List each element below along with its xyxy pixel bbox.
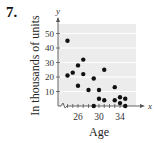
x-tick-label: 26 — [73, 112, 83, 122]
x-axis-symbol: x — [147, 101, 152, 111]
data-point — [113, 85, 117, 89]
data-point — [118, 101, 122, 105]
data-point — [123, 97, 127, 101]
data-point — [113, 98, 117, 102]
data-point — [76, 63, 80, 67]
data-point — [86, 88, 90, 92]
data-point — [71, 70, 75, 74]
y-tick-label: 20 — [45, 72, 55, 82]
data-point — [92, 104, 96, 108]
y-tick-label: 10 — [45, 87, 55, 97]
data-point — [102, 68, 106, 72]
x-tick-label: 34 — [115, 112, 125, 122]
data-point — [97, 97, 101, 101]
x-axis-arrow-icon — [140, 104, 145, 108]
data-point — [65, 39, 69, 43]
y-tick-label: 30 — [45, 58, 55, 68]
data-point — [65, 73, 69, 77]
y-tick-label: 50 — [45, 29, 55, 39]
data-point — [123, 104, 127, 108]
data-point — [76, 84, 80, 88]
plot-area — [58, 24, 136, 106]
data-point — [97, 88, 101, 92]
data-point — [81, 57, 85, 61]
scatter-plot: 1020304050yx263034Age — [0, 0, 158, 143]
y-tick-label: 40 — [45, 43, 55, 53]
y-axis-arrow-icon — [56, 17, 60, 22]
x-axis-label: Age — [89, 125, 109, 139]
data-point — [102, 98, 106, 102]
y-axis-symbol: y — [55, 6, 60, 16]
x-tick-label: 30 — [94, 112, 104, 122]
data-point — [92, 76, 96, 80]
data-point — [118, 95, 122, 99]
data-point — [81, 72, 85, 76]
